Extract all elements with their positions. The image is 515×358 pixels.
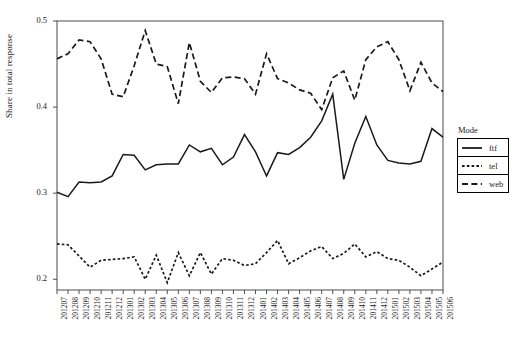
y-tick-label: 0.2 <box>23 273 47 283</box>
legend-entry-web: web <box>458 174 508 192</box>
series-line-web <box>57 30 443 109</box>
x-tick-label: 201302 <box>137 297 146 337</box>
legend: Mode ftftelweb <box>457 125 509 193</box>
x-tick-label: 201211 <box>104 297 113 337</box>
x-tick-label: 201412 <box>380 297 389 337</box>
legend-title: Mode <box>457 125 509 135</box>
x-tick-label: 201207 <box>60 297 69 337</box>
axis-ticks <box>53 21 443 294</box>
x-tick-label: 201301 <box>126 297 135 337</box>
x-tick-label: 201408 <box>336 297 345 337</box>
legend-entry-tel: tel <box>458 156 508 174</box>
x-tick-label: 201402 <box>270 297 279 337</box>
x-tick-label: 201404 <box>292 297 301 337</box>
legend-key-web-icon <box>458 176 486 192</box>
x-tick-label: 201504 <box>424 297 433 337</box>
x-tick-label: 201505 <box>435 297 444 337</box>
x-tick-label: 201304 <box>159 297 168 337</box>
y-tick-label: 0.3 <box>23 187 47 197</box>
x-tick-label: 201401 <box>259 297 268 337</box>
x-tick-label: 201501 <box>391 297 400 337</box>
legend-label-ftf: ftf <box>489 143 497 153</box>
x-tick-label: 201407 <box>325 297 334 337</box>
x-tick-label: 201308 <box>203 297 212 337</box>
x-tick-label: 201305 <box>170 297 179 337</box>
x-tick-label: 201410 <box>358 297 367 337</box>
x-tick-label: 201310 <box>225 297 234 337</box>
x-tick-label: 201311 <box>236 297 245 337</box>
legend-entry-ftf: ftf <box>458 139 508 156</box>
x-tick-label: 201307 <box>192 297 201 337</box>
x-tick-label: 201409 <box>347 297 356 337</box>
x-tick-label: 201312 <box>247 297 256 337</box>
x-tick-label: 201208 <box>71 297 80 337</box>
series-line-ftf <box>57 94 443 196</box>
chart-figure: Share in total response 0.20.30.40.5 201… <box>0 0 515 358</box>
legend-key-ftf-icon <box>458 140 486 156</box>
legend-label-tel: tel <box>489 161 498 171</box>
x-tick-label: 201406 <box>314 297 323 337</box>
x-tick-label: 201403 <box>281 297 290 337</box>
legend-key-tel-icon <box>458 158 486 174</box>
x-tick-label: 201502 <box>402 297 411 337</box>
x-tick-label: 201210 <box>93 297 102 337</box>
x-tick-label: 201405 <box>303 297 312 337</box>
x-tick-label: 201209 <box>82 297 91 337</box>
x-tick-label: 201503 <box>413 297 422 337</box>
x-tick-label: 201309 <box>214 297 223 337</box>
x-tick-label: 201212 <box>115 297 124 337</box>
data-series-lines <box>57 30 443 282</box>
x-tick-label: 201303 <box>148 297 157 337</box>
legend-label-web: web <box>489 179 503 189</box>
x-tick-label: 201506 <box>446 297 455 337</box>
y-tick-label: 0.4 <box>23 101 47 111</box>
y-tick-label: 0.5 <box>23 15 47 25</box>
y-axis-title: Share in total response <box>4 0 14 118</box>
series-line-tel <box>57 241 443 283</box>
legend-entries: ftftelweb <box>457 138 509 193</box>
x-tick-label: 201411 <box>369 297 378 337</box>
x-tick-label: 201306 <box>181 297 190 337</box>
